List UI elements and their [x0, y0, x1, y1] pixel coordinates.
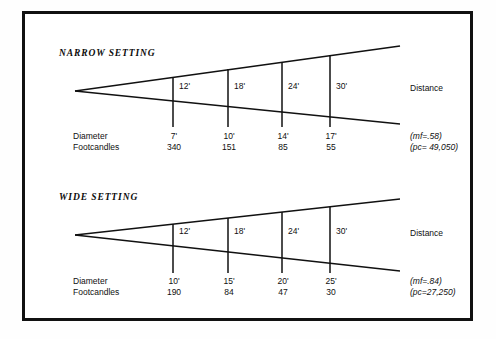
wide-diameter-24: 20': [277, 276, 288, 286]
wide-footcandles-18: 84: [224, 287, 233, 297]
wide-beam-lower-edge: [75, 235, 400, 271]
wide-distance-label-24: 24': [288, 226, 299, 236]
wide-footcandles-24: 47: [278, 287, 287, 297]
wide-distance-label-18: 18': [234, 226, 245, 236]
wide-distance-axis-label: Distance: [410, 228, 443, 238]
wide-distance-label-12: 12': [179, 226, 190, 236]
wide-diameter-18: 15': [223, 276, 234, 286]
figure-canvas: NARROW SETTING 12' 18' 24' 30' Distance …: [0, 0, 496, 339]
wide-note-pc: (pc=27,250): [410, 287, 456, 297]
wide-footcandles-30: 30: [326, 287, 335, 297]
wide-diameter-12: 10': [168, 276, 179, 286]
wide-footcandles-12: 190: [167, 287, 181, 297]
wide-note-mf: (mf=.84): [410, 276, 442, 286]
wide-row-label-diameter: Diameter: [73, 276, 107, 286]
wide-setting-title: WIDE SETTING: [59, 192, 138, 202]
figure-frame: NARROW SETTING 12' 18' 24' 30' Distance …: [22, 11, 473, 321]
wide-distance-label-30: 30': [336, 226, 347, 236]
wide-row-label-footcandles: Footcandles: [73, 287, 119, 297]
wide-diameter-30: 25': [325, 276, 336, 286]
panel-wide-setting: WIDE SETTING 12' 18' 24' 30' Distance Di…: [25, 14, 476, 324]
